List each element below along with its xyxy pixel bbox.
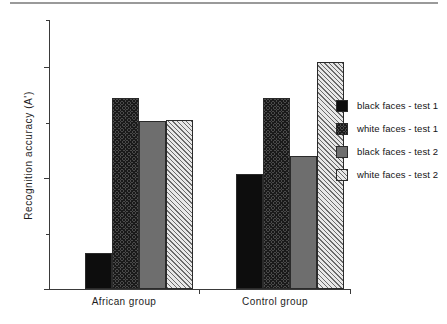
bar-control-series-0	[236, 174, 263, 289]
legend-item-0[interactable]: black faces - test 1	[336, 100, 438, 112]
y-tick-group-0.4: 0.4	[0, 289, 50, 290]
bar-african-series-2	[139, 121, 166, 289]
bar-control-series-1	[263, 98, 290, 289]
legend-label-0: black faces - test 1	[357, 101, 438, 111]
figure-canvas: 0.4 0.6 0.8 Recognition accuracy (A') Af…	[0, 0, 447, 324]
legend-swatch-icon-1	[336, 123, 348, 135]
legend-item-2[interactable]: black faces - test 2	[336, 146, 438, 158]
y-axis-title: Recognition accuracy (A')	[23, 36, 34, 276]
legend-label-3: white faces - test 2	[357, 170, 438, 180]
x-tick-mark-right	[350, 289, 351, 294]
legend-item-3[interactable]: white faces - test 2	[336, 169, 438, 181]
y-tick-group-top-minor	[0, 20, 50, 21]
legend-swatch-icon-0	[336, 100, 348, 112]
legend-swatch-icon-2	[336, 146, 348, 158]
bar-african-series-1	[112, 98, 139, 289]
x-category-label-african: African group	[92, 296, 157, 307]
y-tick-mark	[44, 289, 50, 290]
legend-item-1[interactable]: white faces - test 1	[336, 123, 438, 135]
bar-african-series-0	[85, 253, 112, 289]
legend-label-1: white faces - test 1	[357, 124, 438, 134]
bar-control-series-2	[290, 156, 317, 289]
legend-label-2: black faces - test 2	[357, 147, 438, 157]
bar-african-series-3	[166, 120, 193, 289]
bars-layer	[49, 20, 350, 289]
x-tick-mark-mid	[199, 289, 200, 294]
page-top-rule	[10, 2, 438, 4]
legend-swatch-icon-3	[336, 169, 348, 181]
x-category-label-control: Control group	[242, 296, 308, 307]
